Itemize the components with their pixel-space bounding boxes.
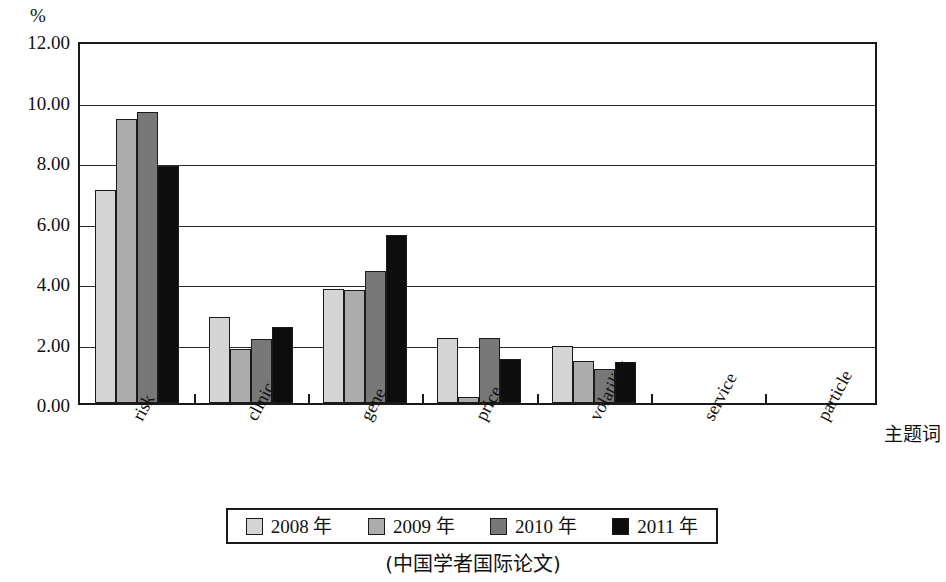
x-axis-tick-mark bbox=[537, 394, 539, 403]
bar-group bbox=[308, 44, 422, 403]
legend-label: 2011 年 bbox=[637, 517, 698, 536]
bar bbox=[95, 190, 116, 403]
chart-legend: 2008 年2009 年2010 年2011 年 bbox=[226, 508, 718, 544]
bar bbox=[552, 346, 573, 403]
x-axis-tick-mark bbox=[194, 394, 196, 403]
y-axis-tick-label: 10.00 bbox=[0, 94, 70, 113]
legend-item: 2008 年 bbox=[246, 517, 333, 536]
y-axis-tick-label: 6.00 bbox=[0, 215, 70, 234]
bar-group bbox=[422, 44, 536, 403]
y-axis-tick-label: 4.00 bbox=[0, 275, 70, 294]
legend-item: 2010 年 bbox=[490, 517, 577, 536]
bar bbox=[209, 317, 230, 403]
y-axis-tick-label: 8.00 bbox=[0, 154, 70, 173]
bar-group bbox=[765, 44, 879, 403]
legend-label: 2010 年 bbox=[515, 517, 577, 536]
legend-label: 2008 年 bbox=[271, 517, 333, 536]
bar bbox=[158, 166, 179, 403]
bar bbox=[323, 289, 344, 403]
x-axis-title: 主题词 bbox=[884, 423, 941, 445]
legend-item: 2009 年 bbox=[368, 517, 455, 536]
bar bbox=[137, 112, 158, 403]
bar bbox=[230, 349, 251, 403]
bar-chart-figure: % 0.002.004.006.008.0010.0012.00 riskcli… bbox=[0, 0, 946, 582]
legend-swatch-icon bbox=[368, 518, 385, 535]
bar bbox=[365, 271, 386, 403]
y-axis-tick-label: 0.00 bbox=[0, 396, 70, 415]
bar bbox=[437, 338, 458, 403]
legend-swatch-icon bbox=[490, 518, 507, 535]
y-axis-tick-label: 2.00 bbox=[0, 336, 70, 355]
bar bbox=[116, 119, 137, 403]
y-axis-tick-label: 12.00 bbox=[0, 33, 70, 52]
y-axis-unit-label: % bbox=[30, 6, 46, 26]
figure-caption: (中国学者国际论文) bbox=[0, 552, 946, 576]
legend-swatch-icon bbox=[612, 518, 629, 535]
bar-group bbox=[651, 44, 765, 403]
bar-series-container bbox=[80, 44, 875, 403]
x-axis-tick-mark bbox=[422, 394, 424, 403]
bar-group bbox=[194, 44, 308, 403]
x-axis-tick-mark bbox=[651, 394, 653, 403]
bar bbox=[573, 361, 594, 403]
x-axis-tick-mark bbox=[765, 394, 767, 403]
plot-area bbox=[78, 42, 877, 405]
bar bbox=[344, 290, 365, 403]
bar-group bbox=[537, 44, 651, 403]
bar bbox=[386, 235, 407, 403]
bar bbox=[500, 359, 521, 403]
legend-label: 2009 年 bbox=[393, 517, 455, 536]
legend-swatch-icon bbox=[246, 518, 263, 535]
x-axis-tick-mark bbox=[308, 394, 310, 403]
bar-group bbox=[80, 44, 194, 403]
legend-item: 2011 年 bbox=[612, 517, 698, 536]
